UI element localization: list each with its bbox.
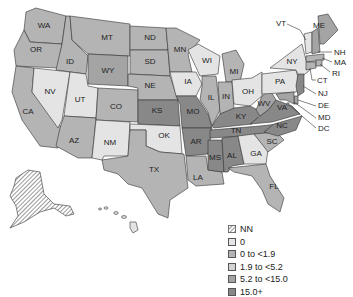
label-vt: VT xyxy=(276,19,286,28)
state-hi[interactable] xyxy=(99,207,139,233)
label-fl: FL xyxy=(269,182,279,191)
swatch-icon xyxy=(228,250,236,258)
label-ga: GA xyxy=(250,149,262,158)
label-va: VA xyxy=(277,103,288,112)
label-ny: NY xyxy=(286,57,298,66)
state-ct[interactable] xyxy=(306,62,316,70)
label-wv: WV xyxy=(258,99,272,108)
legend-label: NN xyxy=(240,224,253,234)
legend-item-15-plus: 15.0+ xyxy=(228,286,348,297)
label-ar: AR xyxy=(190,137,201,146)
label-me: ME xyxy=(313,21,325,30)
state-mi[interactable] xyxy=(222,50,244,82)
label-nm: NM xyxy=(104,138,117,147)
label-nh: NH xyxy=(334,48,346,57)
label-pa: PA xyxy=(275,77,286,86)
label-nd: ND xyxy=(144,33,156,42)
label-sd: SD xyxy=(144,57,155,66)
legend-item-1.9-5.2: 1.9 to <5.2 xyxy=(228,261,348,274)
state-ak[interactable] xyxy=(10,170,74,228)
legend-label: 1.9 to <5.2 xyxy=(240,262,283,272)
swatch-icon xyxy=(228,263,236,271)
label-ca: CA xyxy=(22,107,34,116)
label-in: IN xyxy=(222,92,230,101)
label-ut: UT xyxy=(75,95,86,104)
state-nj[interactable] xyxy=(296,74,304,96)
legend-label: 0 to <1.9 xyxy=(240,249,275,259)
label-ct: CT xyxy=(317,76,328,85)
legend-item-0-1.9: 0 to <1.9 xyxy=(228,248,348,261)
label-wa: WA xyxy=(38,21,51,30)
label-ia: IA xyxy=(184,77,192,86)
label-ri: RI xyxy=(332,69,340,78)
swatch-icon xyxy=(228,288,236,296)
legend-label: 5.2 to <15.0 xyxy=(240,274,288,284)
label-ms: MS xyxy=(209,153,221,162)
label-ne: NE xyxy=(144,81,155,90)
label-mn: MN xyxy=(174,45,187,54)
label-mo: MO xyxy=(187,107,200,116)
label-az: AZ xyxy=(69,136,79,145)
label-co: CO xyxy=(110,102,122,111)
label-nv: NV xyxy=(44,87,56,96)
label-wy: WY xyxy=(102,66,116,75)
legend-item-0: 0 xyxy=(228,236,348,249)
label-mt: MT xyxy=(101,33,113,42)
label-la: LA xyxy=(193,173,203,182)
legend-item-5.2-15: 5.2 to <15.0 xyxy=(228,273,348,286)
state-vt[interactable] xyxy=(304,32,312,54)
state-dc[interactable] xyxy=(287,103,289,105)
label-de: DE xyxy=(318,101,329,110)
label-id: ID xyxy=(66,57,74,66)
label-ma: MA xyxy=(334,58,347,67)
label-tn: TN xyxy=(231,126,242,135)
label-il: IL xyxy=(208,93,215,102)
map-legend: NN 0 0 to <1.9 1.9 to <5.2 5.2 to <15.0 … xyxy=(228,223,348,297)
swatch-icon xyxy=(228,275,236,283)
label-ok: OK xyxy=(158,131,170,140)
label-md: MD xyxy=(318,113,331,122)
label-nj: NJ xyxy=(318,89,328,98)
label-or: OR xyxy=(30,45,42,54)
label-wi: WI xyxy=(202,56,212,65)
label-nc: NC xyxy=(276,121,288,130)
label-mi: MI xyxy=(230,67,239,76)
legend-label: 15.0+ xyxy=(240,287,263,297)
hatch-swatch-icon xyxy=(228,225,236,233)
legend-label: 0 xyxy=(240,237,245,247)
label-oh: OH xyxy=(242,87,254,96)
label-ky: KY xyxy=(236,112,247,121)
label-al: AL xyxy=(227,151,237,160)
legend-item-nn: NN xyxy=(228,223,348,236)
label-dc: DC xyxy=(318,124,330,133)
state-nh[interactable] xyxy=(312,28,320,54)
label-ks: KS xyxy=(152,106,163,115)
swatch-icon xyxy=(228,238,236,246)
label-sc: SC xyxy=(266,137,277,146)
label-tx: TX xyxy=(149,165,160,174)
